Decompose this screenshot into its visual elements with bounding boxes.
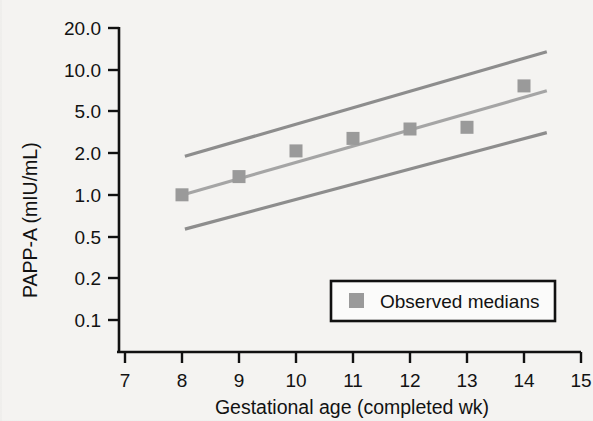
data-point-marker [290, 144, 303, 157]
data-point-marker [518, 79, 531, 92]
x-tick-label-15: 15 [570, 370, 591, 391]
x-tick-label-14: 14 [513, 370, 535, 391]
x-tick-label-7: 7 [120, 370, 131, 391]
data-point-marker [176, 188, 189, 201]
y-axis-title: PAPP-A (mIU/mL) [19, 142, 41, 298]
y-tick-label-0-5: 0.5 [75, 227, 101, 248]
y-tick-label-2: 2.0 [75, 143, 101, 164]
plot-line [185, 52, 547, 157]
y-tick-label-0-1: 0.1 [75, 310, 101, 331]
y-tick-label-0-2: 0.2 [75, 268, 101, 289]
y-tick-label-10: 10.0 [64, 60, 101, 81]
data-point-marker [347, 132, 360, 145]
y-axis-ticks [108, 28, 119, 320]
chart-figure: PAPP-A (mIU/mL) 20.0 10.0 5.0 2.0 1.0 0.… [0, 0, 593, 421]
x-tick-label-11: 11 [343, 370, 363, 391]
data-point-marker [233, 170, 246, 183]
x-tick-label-9: 9 [234, 370, 245, 391]
x-axis-ticks [125, 352, 581, 363]
legend-marker-swatch [349, 293, 364, 308]
x-axis-title: Gestational age (completed wk) [215, 396, 489, 418]
legend-label-observed-medians: Observed medians [380, 291, 539, 312]
y-tick-label-20: 20.0 [64, 18, 101, 39]
y-tick-label-5: 5.0 [75, 101, 101, 122]
y-tick-label-1: 1.0 [75, 185, 101, 206]
x-tick-label-12: 12 [399, 370, 420, 391]
x-tick-label-10: 10 [285, 370, 306, 391]
regression-lines [185, 52, 547, 229]
data-point-marker [404, 123, 417, 136]
data-point-marker [461, 121, 474, 134]
legend: Observed medians [331, 281, 555, 321]
x-tick-label-13: 13 [456, 370, 477, 391]
x-tick-label-8: 8 [177, 370, 188, 391]
